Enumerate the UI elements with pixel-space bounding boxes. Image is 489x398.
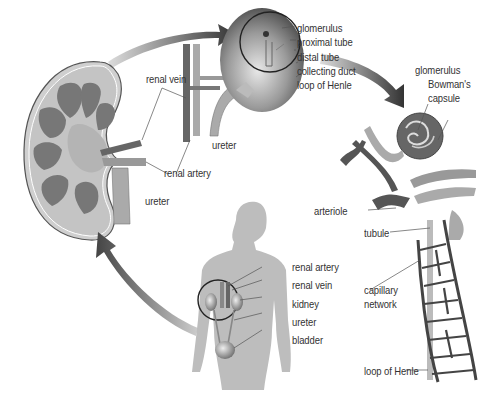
label-tubule: tubule [364,227,389,239]
label-renal-artery: renal artery [164,167,211,179]
diagram-artwork [0,0,489,398]
label-ureter-body: ureter [292,316,316,328]
label-distal-tube: distal tube [297,51,339,63]
label-bladder-body: bladder [292,334,323,346]
label-ureter-closeup: ureter [212,139,236,151]
label-renal-artery-body: renal artery [292,261,339,273]
label-glomerulus-closeup: glomerulus [297,22,342,34]
label-capillary-network-line2: network [364,298,397,310]
label-glomerulus-nephron: glomerulus [415,64,460,76]
arrow-bottom [96,232,198,336]
label-kidney-body: kidney [292,298,319,310]
kidney-closeup [220,8,304,112]
label-collecting-duct: collecting duct [297,65,356,77]
human-figure [192,202,291,390]
kidney-diagram: renal vein renal artery ureter ureter gl… [0,0,489,398]
label-renal-vein-body: renal vein [292,279,332,291]
label-bowmans-capsule-line1: Bowman's [428,78,471,90]
label-bowmans-capsule-line2: capsule [428,92,460,104]
label-renal-vein: renal vein [146,73,186,85]
label-ureter-section: ureter [145,195,169,207]
kidney-section [24,62,146,240]
label-loop-of-henle-closeup: loop of Henle [297,79,352,91]
label-arteriole: arteriole [314,205,347,217]
label-capillary-network-line1: capillary [364,284,398,296]
nephron [340,113,476,382]
label-loop-of-henle-nephron: loop of Henle [364,365,419,377]
label-proximal-tube: proximal tube [297,36,353,48]
arrow-top [108,24,236,68]
